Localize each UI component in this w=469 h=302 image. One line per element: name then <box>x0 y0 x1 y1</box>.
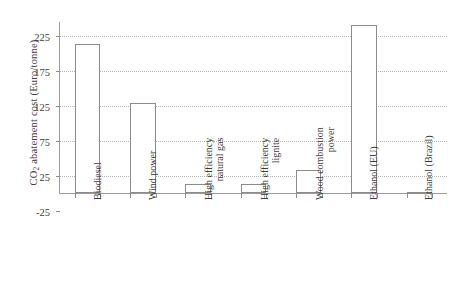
y-axis-tick-label: 125 <box>34 101 50 112</box>
x-axis-line <box>59 193 447 194</box>
x-axis-label-line: power <box>325 127 336 200</box>
gridline <box>60 36 447 37</box>
y-axis-tick: 225 <box>56 36 60 37</box>
y-axis-title-subscript: 2 <box>32 167 41 171</box>
y-axis-title: CO2 abatement cost (Euro/tonne) <box>28 18 39 208</box>
gridline <box>60 71 447 72</box>
y-axis-tick-label: 225 <box>34 31 50 42</box>
x-axis-tick <box>75 193 76 198</box>
x-axis-label: Ethanol (Brazil) <box>423 135 434 200</box>
x-axis-label-line: Ethanol (EU) <box>368 146 379 200</box>
x-axis-label: High efficiencylignite <box>259 138 281 200</box>
x-axis-label-line: lignite <box>270 138 281 200</box>
x-axis-label-line: High efficiency <box>203 138 214 200</box>
x-axis-tick <box>351 193 352 198</box>
y-axis-tick: 25 <box>56 176 60 177</box>
y-axis-tick: 125 <box>56 106 60 107</box>
x-axis-label: Wood combustionpower <box>314 127 336 200</box>
y-axis-tick: 75 <box>56 141 60 142</box>
x-axis-tick <box>130 193 131 198</box>
x-axis-tick <box>407 193 408 198</box>
x-axis-label-line: High efficiency <box>259 138 270 200</box>
gridline <box>60 176 447 177</box>
x-axis-label: Ethanol (EU) <box>368 146 379 200</box>
y-axis-tick: 175 <box>56 71 60 72</box>
y-axis-tick-label: 75 <box>40 136 51 147</box>
gridline <box>60 141 447 142</box>
gridline <box>60 106 447 107</box>
x-axis-label: Biodiesel <box>92 162 103 200</box>
x-axis-label: Wind power <box>147 151 158 200</box>
y-axis-tick: -25 <box>56 211 60 212</box>
y-axis-tick-label: -25 <box>36 206 50 217</box>
x-axis-label-line: natural gas <box>214 138 225 200</box>
x-axis-label-line: Ethanol (Brazil) <box>423 135 434 200</box>
y-axis-tick-label: 25 <box>40 171 51 182</box>
plot-area: -252575125175225 BiodieselWind powerHigh… <box>60 22 447 193</box>
y-axis-tick-label: 175 <box>34 66 50 77</box>
x-axis-label: High efficiencynatural gas <box>203 138 225 200</box>
x-axis-tick <box>296 193 297 198</box>
co2-abatement-cost-bar-chart: CO2 abatement cost (Euro/tonne) -2525751… <box>0 0 469 302</box>
x-axis-label-line: Wood combustion <box>314 127 325 200</box>
y-axis-title-prefix: CO <box>28 171 39 186</box>
x-axis-label-line: Biodiesel <box>92 162 103 200</box>
y-axis-line <box>59 22 60 194</box>
x-axis-label-line: Wind power <box>147 151 158 200</box>
x-axis-tick <box>185 193 186 198</box>
x-axis-tick <box>241 193 242 198</box>
